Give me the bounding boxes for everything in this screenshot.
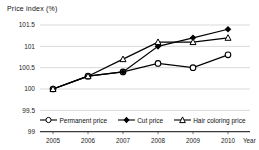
- open-triangle-marker: [120, 56, 126, 62]
- x-axis-title: Year: [243, 137, 256, 144]
- series-lines: [53, 29, 228, 89]
- open-triangle-marker-icon: [174, 116, 191, 124]
- x-axis-tick-labels: 200520062007200820092010Year: [46, 132, 256, 144]
- legend-item-cut-price: Cut price: [118, 116, 163, 124]
- x-tick-label: 2009: [186, 137, 201, 144]
- y-tick-label: 101: [24, 43, 35, 50]
- y-tick-label: 101.5: [19, 21, 36, 28]
- y-tick-label: 100: [24, 85, 35, 92]
- x-tick-label: 2005: [46, 137, 61, 144]
- legend-label-cut-price: Cut price: [137, 117, 163, 124]
- filled-diamond-marker-icon: [118, 116, 135, 124]
- series-line-open-triangle: [53, 38, 228, 89]
- line-chart-canvas: 9999.5100100.5101101.5200520062007200820…: [0, 0, 259, 150]
- legend-item-hair-coloring-price: Hair coloring price: [174, 116, 245, 124]
- price-index-chart: Price index (%) 9999.5100100.5101101.520…: [0, 0, 259, 150]
- legend-item-permanent-price: Permanent price: [40, 116, 107, 124]
- open-circle-marker: [190, 65, 196, 71]
- y-tick-label: 99: [28, 128, 36, 135]
- y-tick-label: 100.5: [19, 64, 36, 71]
- x-tick-label: 2007: [116, 137, 131, 144]
- open-circle-marker: [225, 52, 231, 58]
- x-tick-label: 2006: [81, 137, 96, 144]
- series-line-open-circle: [53, 55, 228, 89]
- legend-label-permanent-price: Permanent price: [59, 117, 107, 124]
- open-circle-marker: [155, 61, 161, 67]
- x-tick-label: 2010: [221, 137, 236, 144]
- y-axis-tick-labels: 9999.5100100.5101101.5: [19, 21, 36, 135]
- filled-diamond-marker: [225, 26, 232, 33]
- y-tick-label: 99.5: [22, 107, 35, 114]
- open-circle-marker-icon: [40, 116, 57, 124]
- x-tick-label: 2008: [151, 137, 166, 144]
- legend-label-hair-coloring-price: Hair coloring price: [193, 117, 245, 124]
- chart-legend: Permanent price Cut price Hair coloring …: [40, 114, 246, 126]
